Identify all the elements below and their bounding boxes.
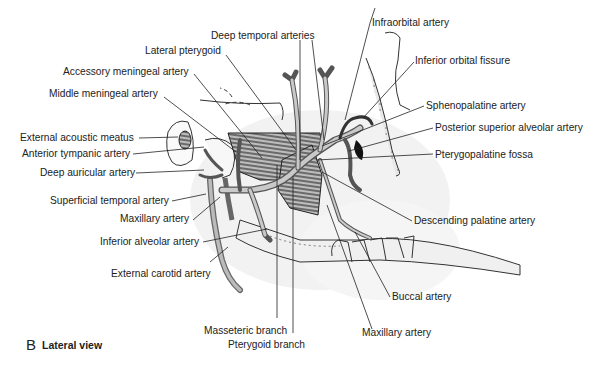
label-inferior-alveolar-artery: Inferior alveolar artery [100, 236, 199, 248]
label-masseteric-branch: Masseteric branch [204, 325, 287, 337]
label-maxillary-artery-left: Maxillary artery [120, 213, 189, 225]
label-pterygoid-branch: Pterygoid branch [228, 339, 305, 351]
label-infraorbital-artery: Infraorbital artery [372, 17, 449, 29]
label-deep-auricular-artery: Deep auricular artery [40, 167, 135, 179]
label-descending-palatine-artery: Descending palatine artery [414, 215, 535, 227]
label-inferior-orbital-fissure: Inferior orbital fissure [415, 55, 510, 67]
label-middle-meningeal-artery: Middle meningeal artery [49, 88, 158, 100]
label-external-acoustic-meatus: External acoustic meatus [20, 132, 134, 144]
label-external-carotid-artery: External carotid artery [111, 268, 211, 280]
label-deep-temporal-arteries: Deep temporal arteries [211, 30, 315, 42]
panel-title: Lateral view [42, 339, 102, 351]
label-posterior-superior-alveolar-artery: Posterior superior alveolar artery [435, 122, 583, 134]
label-maxillary-artery-bottom: Maxillary artery [362, 327, 431, 339]
anatomy-figure: Deep temporal arteries Lateral pterygoid… [0, 0, 604, 365]
label-lateral-pterygoid: Lateral pterygoid [145, 45, 221, 57]
label-sphenopalatine-artery: Sphenopalatine artery [426, 100, 526, 112]
label-buccal-artery: Buccal artery [392, 291, 451, 303]
label-accessory-meningeal-artery: Accessory meningeal artery [63, 66, 189, 78]
label-superficial-temporal-artery: Superficial temporal artery [50, 195, 169, 207]
panel-letter: B [26, 336, 36, 353]
label-anterior-tympanic-artery: Anterior tympanic artery [22, 148, 130, 160]
maxillary-artery-illustration [0, 0, 604, 365]
label-pterygopalatine-fossa: Pterygopalatine fossa [435, 149, 533, 161]
